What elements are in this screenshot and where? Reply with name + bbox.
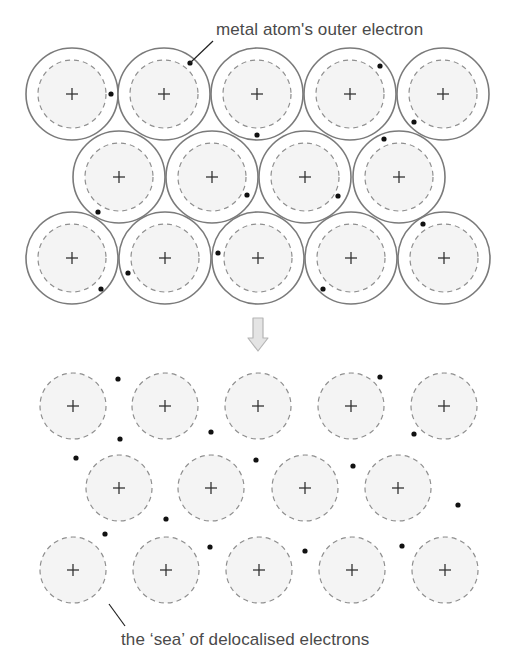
sea-pointer [109,604,125,626]
atom-core [409,60,477,128]
metal-ion [412,537,478,603]
electron-dot [455,502,460,507]
metallic-bonding-diagram [0,0,507,669]
electron-dot [95,209,100,214]
electron-dot [411,119,416,124]
atom-core [130,60,198,128]
atom-core [38,60,106,128]
electron-dot [350,463,355,468]
electron-dot [115,376,120,381]
outer-electron-label: metal atom's outer electron [216,20,423,40]
metal-ion [272,455,338,521]
metal-ion [318,373,384,439]
electron-dot [98,286,103,291]
metal-ion [226,537,292,603]
electron-dot [377,374,382,379]
electron-dot [207,544,212,549]
electron-dot [102,531,107,536]
atom-core [224,224,292,292]
metal-ion [365,455,431,521]
atom-core [316,60,384,128]
electron-dot [163,516,168,521]
electron-dot [320,286,325,291]
electron-dot [125,270,130,275]
electron-dot [302,548,307,553]
electron-dot [335,193,340,198]
electron-dot [399,543,404,548]
ion-sea-lattice [40,373,478,603]
atom-core [271,143,339,211]
atom-core [410,224,478,292]
electron-dot [244,192,249,197]
electron-dot [215,250,220,255]
electron-dot [73,455,78,460]
atom-core [365,143,433,211]
metal-ion [132,373,198,439]
metal-atom-lattice [26,48,490,304]
electron-dot [108,91,113,96]
metal-ion [225,373,291,439]
delocalised-electrons-label: the ‘sea’ of delocalised electrons [121,630,369,650]
electron-dot [208,429,213,434]
electron-dot [253,457,258,462]
metal-ion [319,537,385,603]
metal-ion [86,455,152,521]
atom-core [317,224,385,292]
metal-ion [178,455,244,521]
electron-dot [411,431,416,436]
atom-core [131,224,199,292]
outer-electron-pointer [190,41,213,63]
metal-ion [40,373,106,439]
atom-core [85,143,153,211]
metal-ion [411,373,477,439]
atom-core [223,60,291,128]
electron-dot [117,436,122,441]
down-arrow-icon [248,318,268,351]
electron-dot [420,221,425,226]
electron-dot [381,136,386,141]
atom-core [38,224,106,292]
electron-dot [254,132,259,137]
metal-ion [133,537,199,603]
metal-ion [40,537,106,603]
atom-core [178,143,246,211]
electron-dot [377,63,382,68]
